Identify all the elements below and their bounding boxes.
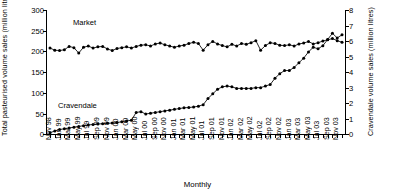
y-tickmark-left-100: [43, 93, 46, 94]
data-point-cravendale: [273, 77, 276, 80]
data-point-market: [154, 42, 157, 45]
data-point-market: [135, 45, 138, 48]
y-tickmark-right-2: [346, 103, 349, 104]
y-tickmark-right-4: [346, 72, 349, 73]
series-label-market: Market: [73, 18, 96, 27]
data-point-market: [302, 42, 305, 45]
data-point-cravendale: [168, 109, 171, 112]
data-point-cravendale: [183, 106, 186, 109]
data-point-cravendale: [125, 120, 128, 123]
data-point-cravendale: [120, 120, 123, 123]
data-point-cravendale: [216, 88, 219, 91]
data-point-market: [297, 42, 300, 45]
data-point-market: [192, 41, 195, 44]
data-point-cravendale: [82, 124, 85, 127]
data-point-cravendale: [283, 69, 286, 72]
data-point-cravendale: [58, 128, 61, 131]
data-point-market: [278, 44, 281, 47]
data-point-market: [230, 43, 233, 46]
data-point-market: [206, 43, 209, 46]
y-tickmark-left-150: [43, 72, 46, 73]
data-point-market: [92, 47, 95, 50]
data-point-market: [173, 46, 176, 49]
data-point-market: [336, 39, 339, 42]
data-point-market: [168, 45, 171, 48]
data-point-market: [331, 37, 334, 40]
data-point-cravendale: [178, 107, 181, 110]
data-point-cravendale: [106, 122, 109, 125]
data-point-cravendale: [111, 122, 114, 125]
data-point-market: [240, 42, 243, 45]
data-point-cravendale: [230, 85, 233, 88]
chart-container: Total pasteurised volume sales (million …: [0, 0, 395, 194]
data-point-cravendale: [240, 87, 243, 90]
x-axis-title: Monthly: [0, 180, 395, 189]
data-point-cravendale: [331, 32, 334, 35]
data-point-cravendale: [293, 66, 296, 69]
data-point-market: [106, 47, 109, 50]
y-tickmark-left-200: [43, 51, 46, 52]
data-point-market: [149, 45, 152, 48]
data-point-cravendale: [96, 123, 99, 126]
data-point-market: [72, 46, 75, 49]
data-point-cravendale: [77, 125, 80, 128]
data-point-cravendale: [173, 108, 176, 111]
data-point-market: [250, 41, 253, 44]
data-point-market: [139, 44, 142, 47]
data-point-market: [264, 44, 267, 47]
data-point-market: [116, 47, 119, 50]
y-tickmark-left-300: [43, 10, 46, 11]
data-point-cravendale: [53, 130, 56, 133]
data-point-cravendale: [307, 50, 310, 53]
data-point-cravendale: [317, 47, 320, 50]
data-point-market: [87, 45, 90, 48]
y-tickmark-right-8: [346, 10, 349, 11]
data-point-cravendale: [312, 46, 315, 49]
data-point-market: [273, 42, 276, 45]
data-point-cravendale: [87, 123, 90, 126]
data-point-cravendale: [154, 111, 157, 114]
data-point-market: [293, 45, 296, 48]
data-point-market: [321, 40, 324, 43]
data-point-cravendale: [278, 72, 281, 75]
data-point-cravendale: [49, 131, 52, 134]
y-tickmark-right-1: [346, 119, 349, 120]
data-point-cravendale: [288, 69, 291, 72]
data-point-market: [77, 52, 80, 55]
data-point-market: [159, 42, 162, 45]
y-tickmark-right-6: [346, 41, 349, 42]
data-point-cravendale: [116, 121, 119, 124]
data-point-market: [341, 41, 344, 44]
data-point-cravendale: [206, 97, 209, 100]
data-point-cravendale: [321, 44, 324, 47]
data-point-market: [130, 47, 133, 50]
data-point-market: [101, 45, 104, 48]
data-point-cravendale: [297, 61, 300, 64]
data-point-cravendale: [211, 92, 214, 95]
series-label-cravendale: Cravendale: [58, 101, 97, 110]
data-point-cravendale: [149, 112, 152, 115]
data-point-cravendale: [269, 83, 272, 86]
data-point-market: [269, 41, 272, 44]
data-point-cravendale: [254, 86, 257, 89]
data-point-market: [144, 43, 147, 46]
data-point-cravendale: [250, 87, 253, 90]
data-point-cravendale: [163, 109, 166, 112]
data-point-market: [235, 45, 238, 48]
data-point-cravendale: [63, 127, 66, 130]
data-point-cravendale: [159, 110, 162, 113]
data-point-market: [58, 49, 61, 52]
y-tickmark-right-3: [346, 88, 349, 89]
data-point-market: [125, 45, 128, 48]
data-point-market: [183, 44, 186, 47]
data-point-market: [288, 43, 291, 46]
data-point-market: [259, 49, 262, 52]
y-tickmark-right-7: [346, 26, 349, 27]
data-point-market: [82, 46, 85, 49]
data-point-market: [317, 41, 320, 44]
data-point-cravendale: [187, 106, 190, 109]
data-point-cravendale: [259, 86, 262, 89]
data-point-market: [53, 49, 56, 52]
data-point-market: [197, 42, 200, 45]
data-point-market: [163, 43, 166, 46]
